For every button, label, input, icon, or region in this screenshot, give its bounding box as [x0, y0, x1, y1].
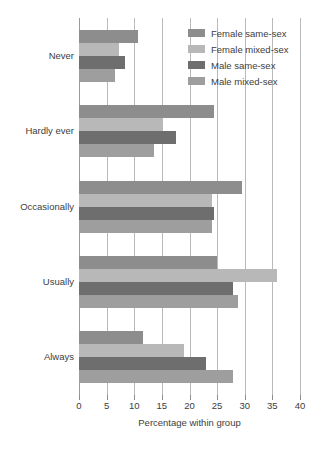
- bar-group: [79, 331, 300, 383]
- bar: [79, 357, 206, 370]
- legend-item: Female mixed-sex: [188, 42, 312, 56]
- bar: [79, 256, 217, 269]
- bar: [79, 269, 277, 282]
- bar: [79, 56, 125, 69]
- bar: [79, 30, 138, 43]
- legend-swatch-icon: [188, 29, 205, 37]
- legend-swatch-icon: [188, 61, 205, 69]
- bar: [79, 331, 143, 344]
- tick-label: 5: [104, 400, 109, 411]
- legend-swatch-icon: [188, 77, 205, 85]
- category-label: Occasionally: [0, 201, 74, 212]
- bar: [79, 144, 154, 157]
- bar: [79, 181, 242, 194]
- category-label: Usually: [0, 276, 74, 287]
- category-label: Never: [0, 50, 74, 61]
- tick-label: 25: [212, 400, 223, 411]
- tick-label: 20: [184, 400, 195, 411]
- legend-swatch-icon: [188, 45, 205, 53]
- bar: [79, 207, 214, 220]
- bar-group: [79, 105, 300, 157]
- bar: [79, 370, 233, 383]
- tick-label: 10: [129, 400, 140, 411]
- x-axis-title: Percentage within group: [79, 417, 300, 428]
- bar: [79, 131, 176, 144]
- bar: [79, 344, 184, 357]
- bar: [79, 43, 119, 56]
- tick-label: 35: [267, 400, 278, 411]
- bar: [79, 220, 212, 233]
- bar-group: [79, 256, 300, 308]
- legend-label: Male mixed-sex: [211, 76, 278, 87]
- legend-label: Male same-sex: [211, 60, 275, 71]
- tick-label: 30: [239, 400, 250, 411]
- legend-label: Female same-sex: [211, 28, 287, 39]
- bar: [79, 118, 162, 131]
- category-label: Hardly ever: [0, 125, 74, 136]
- legend-label: Female mixed-sex: [211, 44, 289, 55]
- legend-item: Female same-sex: [188, 26, 312, 40]
- tick-label: 0: [76, 400, 81, 411]
- bar: [79, 295, 238, 308]
- legend-item: Male same-sex: [188, 58, 312, 72]
- category-label: Always: [0, 351, 74, 362]
- bar-group: [79, 181, 300, 233]
- tick-label: 15: [157, 400, 168, 411]
- bar-chart: NeverHardly everOccasionallyUsuallyAlway…: [0, 0, 316, 450]
- legend: Female same-sexFemale mixed-sexMale same…: [188, 26, 312, 90]
- bar: [79, 194, 212, 207]
- bar: [79, 105, 214, 118]
- bar: [79, 69, 115, 82]
- bar: [79, 282, 233, 295]
- legend-item: Male mixed-sex: [188, 74, 312, 88]
- x-axis-ticks: 0510152025303540: [79, 395, 300, 413]
- tick-label: 40: [295, 400, 306, 411]
- category-axis-labels: NeverHardly everOccasionallyUsuallyAlway…: [0, 18, 74, 395]
